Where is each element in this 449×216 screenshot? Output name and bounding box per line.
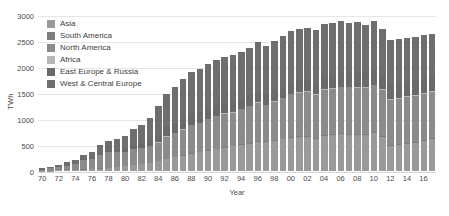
bar-segment <box>255 103 262 141</box>
bar-segment <box>296 93 303 136</box>
bar-segment <box>188 72 195 113</box>
bar-segment <box>354 22 361 72</box>
bar-column <box>212 16 220 171</box>
bar-segment <box>379 90 386 136</box>
x-tick-80: 80 <box>121 174 129 186</box>
bar-segment <box>421 35 428 78</box>
bar-segment <box>329 75 336 88</box>
bar-segment <box>263 142 270 171</box>
legend-item-label: Asia <box>60 19 76 28</box>
x-tick-06: 06 <box>336 174 344 186</box>
bar-segment <box>213 105 220 115</box>
x-tick-96: 96 <box>254 174 262 186</box>
bar-segment <box>288 31 295 82</box>
y-axis-tick-labels: 300025002000150010005000 <box>0 16 34 172</box>
legend-item[interactable]: West & Central Europe <box>47 78 142 89</box>
bar-segment <box>321 76 328 89</box>
x-tick-10: 10 <box>370 174 378 186</box>
bar-column <box>362 16 370 171</box>
x-tick-blank <box>229 174 237 186</box>
bar-segment <box>321 136 328 171</box>
bar-segment <box>338 73 345 87</box>
bar-segment <box>80 170 87 171</box>
bar-segment <box>213 149 220 171</box>
bar-segment <box>97 169 104 171</box>
x-tick-blank <box>361 174 369 186</box>
bar-segment <box>221 103 228 113</box>
x-tick-blank <box>394 174 402 186</box>
bar-segment <box>404 97 411 143</box>
bar-segment <box>371 70 378 85</box>
bar-segment <box>379 75 386 89</box>
legend-item[interactable]: North America <box>47 42 142 53</box>
legend-item[interactable]: Africa <box>47 54 142 65</box>
bar-column <box>204 16 212 171</box>
x-tick-blank <box>411 174 419 186</box>
x-tick-82: 82 <box>137 174 145 186</box>
bar-segment <box>197 152 204 171</box>
legend-item-label: South America <box>60 31 112 40</box>
bar-segment <box>138 148 145 164</box>
bar-segment <box>362 25 369 73</box>
bar-column <box>411 16 419 171</box>
bar-column <box>262 16 270 171</box>
legend-item[interactable]: Asia <box>47 18 142 29</box>
bar-segment <box>230 146 237 171</box>
bar-segment <box>404 38 411 82</box>
bar-column <box>403 16 411 171</box>
bar-segment <box>288 138 295 171</box>
bar-column <box>386 16 394 171</box>
bar-segment <box>221 114 228 147</box>
bar-segment <box>346 73 353 87</box>
x-tick-blank <box>312 174 320 186</box>
y-tick-500: 500 <box>0 142 34 151</box>
bar-segment <box>263 46 270 95</box>
x-tick-74: 74 <box>71 174 79 186</box>
legend-swatch-icon <box>47 20 55 28</box>
bar-segment <box>105 141 112 150</box>
legend-item-label: North America <box>60 43 111 52</box>
bar-segment <box>114 139 121 149</box>
bar-segment <box>429 92 436 139</box>
bar-segment <box>354 73 361 87</box>
bar-column <box>245 16 253 171</box>
bar-segment <box>163 127 170 136</box>
bar-segment <box>421 94 428 140</box>
bar-segment <box>371 85 378 132</box>
bar-segment <box>412 81 419 96</box>
legend-item[interactable]: East Europe & Russia <box>47 66 142 77</box>
legend-swatch-icon <box>47 68 55 76</box>
legend-swatch-icon <box>47 56 55 64</box>
bar-segment <box>404 144 411 171</box>
bar-column <box>395 16 403 171</box>
bar-segment <box>221 57 228 103</box>
bar-segment <box>288 82 295 94</box>
bar-segment <box>246 106 253 143</box>
x-tick-02: 02 <box>303 174 311 186</box>
bar-column <box>328 16 336 171</box>
bar-segment <box>371 133 378 171</box>
x-tick-blank <box>245 174 253 186</box>
bar-segment <box>421 141 428 171</box>
bar-segment <box>213 60 220 105</box>
bar-column <box>162 16 170 171</box>
bar-segment <box>97 155 104 169</box>
bar-segment <box>329 23 336 75</box>
bar-column <box>370 16 378 171</box>
bar-segment <box>138 125 145 143</box>
bar-segment <box>130 149 137 165</box>
legend-item[interactable]: South America <box>47 30 142 41</box>
bar-segment <box>197 123 204 152</box>
gridline-0 <box>38 172 436 173</box>
bar-segment <box>338 21 345 73</box>
bar-column <box>312 16 320 171</box>
bar-segment <box>213 116 220 149</box>
x-tick-blank <box>196 174 204 186</box>
bar-column <box>420 16 428 171</box>
bar-segment <box>230 55 237 102</box>
bar-segment <box>163 94 170 127</box>
bar-column <box>179 16 187 171</box>
bar-segment <box>105 168 112 171</box>
bar-segment <box>280 139 287 171</box>
x-tick-70: 70 <box>38 174 46 186</box>
